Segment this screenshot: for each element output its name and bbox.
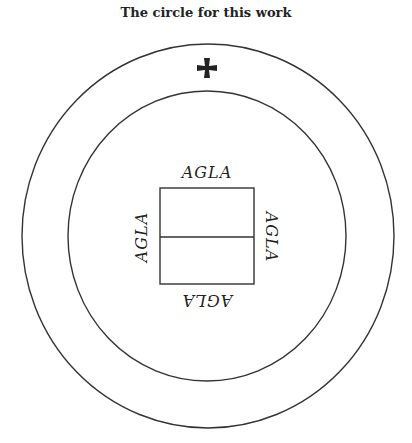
- label-top: AGLA: [180, 163, 233, 182]
- outer-circle: [22, 44, 394, 428]
- cross-pattee-icon: [197, 58, 217, 78]
- central-square: [160, 188, 254, 284]
- inner-circle: [68, 91, 346, 381]
- magic-circle-diagram: AGLA AGLA AGLA AGLA: [0, 0, 412, 443]
- label-bottom: AGLA: [182, 291, 235, 310]
- label-right: AGLA: [262, 210, 281, 263]
- label-left: AGLA: [132, 212, 151, 265]
